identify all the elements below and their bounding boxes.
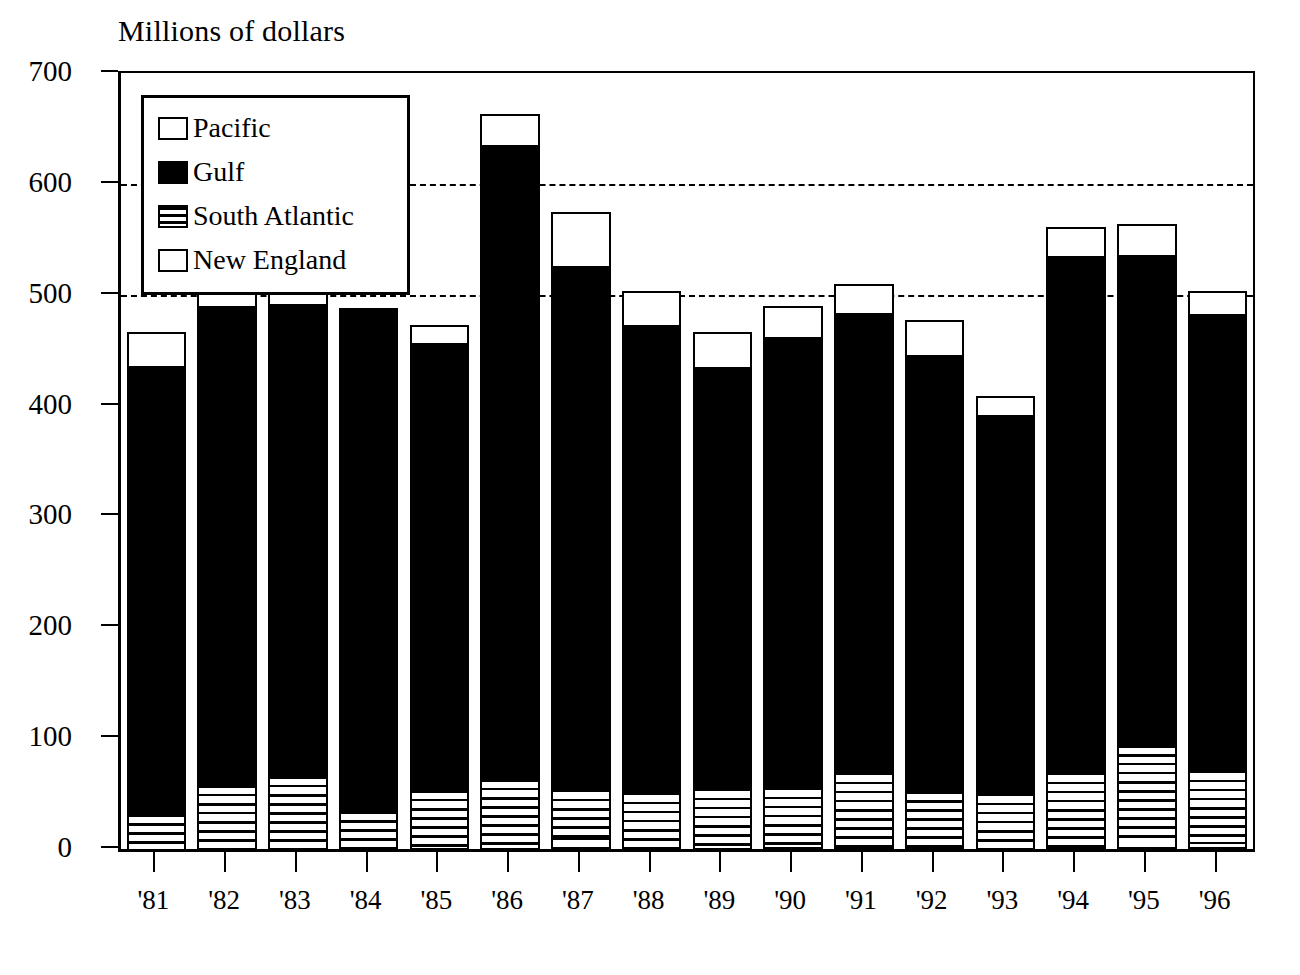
bar-93[interactable] [976,73,1035,849]
legend-item-pacific[interactable]: Pacific [144,106,407,150]
x-tick-mark [649,850,651,872]
bar-segment-gulf [834,315,893,772]
bar-segment-south-atlantic [268,774,327,848]
gulf-swatch-icon [158,161,188,184]
bar-segment-pacific [1117,224,1176,257]
x-tick-label: '82 [208,885,240,916]
bar-94[interactable] [1046,73,1105,849]
x-tick-mark [153,850,155,872]
bar-segment-south-atlantic [1117,743,1176,836]
bar-85[interactable] [410,73,469,849]
bar-segment-south-atlantic [410,788,469,848]
bar-segment-pacific [480,114,539,147]
bar-segment-pacific [551,212,610,269]
bar-96[interactable] [1188,73,1247,849]
bar-90[interactable] [763,73,822,849]
x-tick-label: '85 [420,885,452,916]
bar-segment-south-atlantic [1046,771,1105,846]
pacific-swatch-icon [158,117,188,140]
bar-92[interactable] [905,73,964,849]
y-tick-mark [101,292,118,294]
legend-item-south-atlantic[interactable]: South Atlantic [144,194,407,238]
x-tick-mark [366,850,368,872]
x-tick-mark [578,850,580,872]
bar-segment-gulf [905,357,964,789]
bar-segment-south-atlantic [905,789,964,847]
bar-segment-south-atlantic [339,809,398,848]
bar-88[interactable] [622,73,681,849]
y-tick-mark [101,513,118,515]
chart-figure: Millions of dollars PacificGulfSouth Atl… [0,0,1300,975]
bar-segment-pacific [339,308,398,312]
legend-label: South Atlantic [193,202,354,230]
x-tick-label: '92 [916,885,948,916]
bar-segment-gulf [127,368,186,813]
bar-segment-gulf [197,308,256,782]
bar-segment-south-atlantic [976,792,1035,847]
y-tick-label: 300 [29,498,73,531]
x-tick-mark [436,850,438,872]
x-tick-mark [790,850,792,872]
bar-segment-new-england [1188,842,1247,849]
bar-87[interactable] [551,73,610,849]
y-tick-label: 200 [29,609,73,642]
y-tick-mark [101,735,118,737]
legend-label: Pacific [193,114,271,142]
y-tick-mark [101,403,118,405]
x-tick-mark [932,850,934,872]
x-tick-mark [224,850,226,872]
x-tick-label: '87 [562,885,594,916]
bar-segment-gulf [480,147,539,777]
south-atlantic-swatch-icon [158,205,188,228]
bar-86[interactable] [480,73,539,849]
x-tick-mark [1073,850,1075,872]
x-tick-mark [719,850,721,872]
x-tick-label: '93 [986,885,1018,916]
y-tick-label: 700 [29,55,73,88]
bar-segment-gulf [763,339,822,786]
x-tick-mark [861,850,863,872]
bar-segment-gulf [410,345,469,788]
bar-segment-pacific [410,325,469,345]
legend-item-new-england[interactable]: New England [144,238,407,282]
bar-segment-gulf [1188,316,1247,769]
bar-segment-south-atlantic [834,771,893,846]
bar-segment-pacific [905,320,964,357]
x-tick-label: '91 [845,885,877,916]
y-tick-label: 100 [29,720,73,753]
bar-segment-south-atlantic [763,786,822,847]
bar-segment-gulf [976,417,1035,793]
y-tick-label: 0 [58,831,73,864]
legend-item-gulf[interactable]: Gulf [144,150,407,194]
x-tick-label: '83 [279,885,311,916]
x-tick-label: '95 [1128,885,1160,916]
y-tick-mark [101,624,118,626]
x-tick-mark [1215,850,1217,872]
bar-segment-gulf [268,306,327,774]
bar-segment-new-england [1117,836,1176,849]
bar-segment-pacific [976,396,1035,417]
bar-91[interactable] [834,73,893,849]
x-tick-label: '89 [703,885,735,916]
bar-segment-south-atlantic [622,791,681,846]
new-england-swatch-icon [158,249,188,272]
y-tick-mark [101,846,118,848]
x-tick-label: '94 [1057,885,1089,916]
bar-segment-south-atlantic [127,812,186,849]
bar-95[interactable] [1117,73,1176,849]
chart-title: Millions of dollars [118,14,345,48]
x-tick-mark [1144,850,1146,872]
bar-segment-gulf [1046,258,1105,771]
bar-segment-south-atlantic [1188,769,1247,842]
y-tick-mark [101,181,118,183]
legend-label: Gulf [193,158,244,186]
bar-segment-new-england [551,838,610,849]
bar-segment-gulf [693,369,752,787]
bar-segment-gulf [1117,257,1176,743]
bar-segment-pacific [622,291,681,326]
bar-segment-pacific [693,332,752,369]
x-tick-mark [1002,850,1004,872]
y-tick-label: 600 [29,165,73,198]
bar-89[interactable] [693,73,752,849]
chart-legend: PacificGulfSouth AtlanticNew England [141,95,410,295]
